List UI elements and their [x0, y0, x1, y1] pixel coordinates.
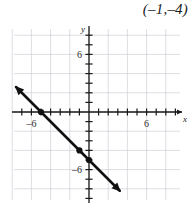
data-point: [38, 109, 44, 115]
data-point: [76, 147, 82, 153]
x-tick-label: 6: [144, 118, 149, 129]
y-axis-name: y: [80, 24, 85, 34]
x-tick-label: –6: [25, 118, 36, 129]
x-axis-name: x: [182, 114, 187, 124]
coordinate-plane: –666–6 xy: [0, 24, 194, 205]
plotted-line: [15, 86, 121, 192]
data-point: [86, 157, 92, 163]
grid-lines: [12, 29, 180, 200]
y-tick-label: 6: [77, 49, 82, 60]
coordinate-plane-svg: –666–6 xy: [0, 24, 194, 205]
axis-names: xy: [80, 24, 187, 124]
y-tick-label: –6: [71, 164, 82, 175]
graph-figure: (–1,–4) –666–6 xy: [0, 0, 194, 205]
x-axis-arrow: [177, 109, 182, 114]
answer-coordinate-label: (–1,–4): [143, 1, 188, 18]
